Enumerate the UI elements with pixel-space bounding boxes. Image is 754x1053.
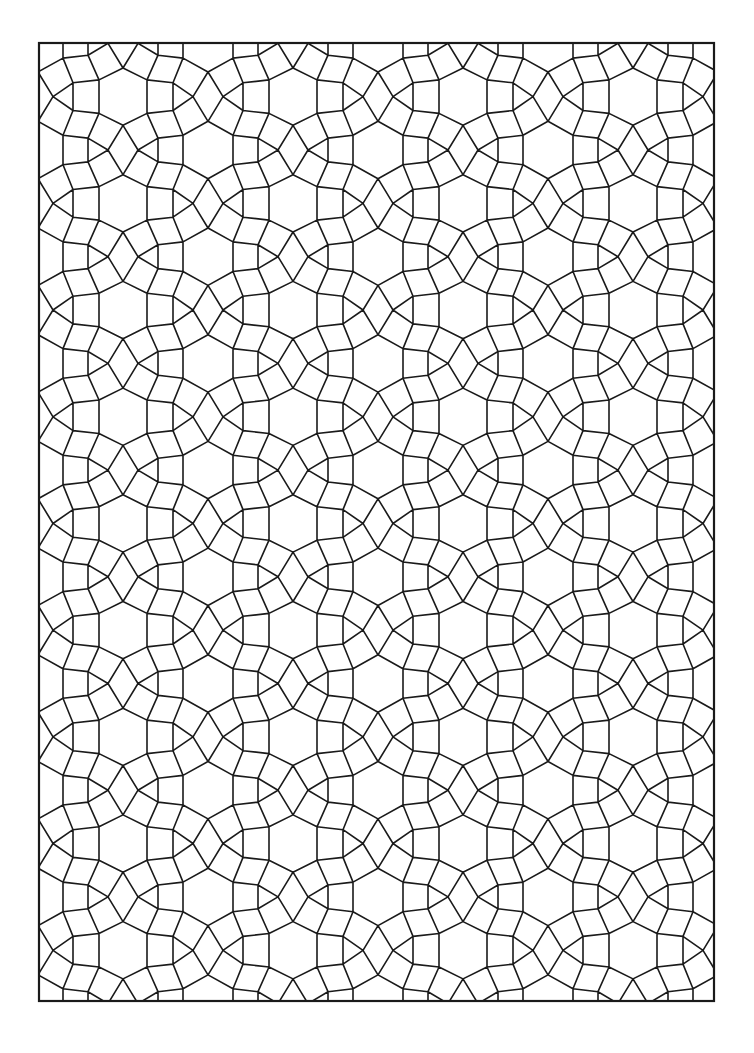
coloring-page — [0, 0, 754, 1053]
